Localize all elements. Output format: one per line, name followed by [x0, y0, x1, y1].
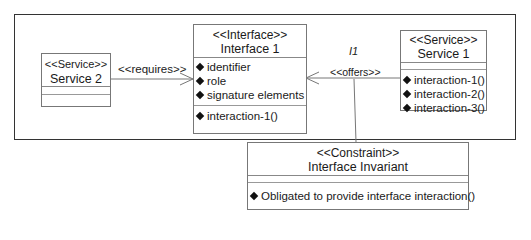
operation-item: interaction-1(): [401, 73, 486, 87]
attributes-section: [248, 176, 468, 183]
operation-item: Obligated to provide interface interacti…: [248, 189, 468, 203]
class-name: Service 2: [42, 71, 110, 87]
diamond-icon: [403, 104, 411, 112]
requires-label: <<requires>>: [118, 63, 186, 75]
interface-1-class[interactable]: <<Interface>> Interface 1 identifier rol…: [193, 24, 307, 134]
class-name: Service 1: [401, 47, 486, 62]
stereotype: <<Interface>>: [194, 28, 306, 42]
diamond-icon: [403, 76, 411, 84]
attribute-item: role: [194, 74, 306, 88]
offers-label: <<offers>>: [330, 66, 381, 78]
attributes-section: [42, 87, 110, 95]
operation-item: interaction-1(): [194, 109, 306, 123]
attribute-item: identifier: [194, 60, 306, 74]
diamond-icon: [196, 77, 204, 85]
operation-item: interaction-3(): [401, 101, 486, 115]
service-2-class[interactable]: <<Service>> Service 2: [41, 53, 111, 107]
operations-section: interaction-1(): [194, 106, 306, 123]
stereotype: <<Constraint>>: [248, 146, 468, 160]
diamond-icon: [196, 112, 204, 120]
diamond-icon: [196, 63, 204, 71]
diamond-icon: [403, 90, 411, 98]
diamond-icon: [196, 91, 204, 99]
stereotype: <<Service>>: [42, 57, 110, 71]
attributes-section: [401, 63, 486, 70]
attribute-item: signature elements: [194, 88, 306, 102]
stereotype: <<Service>>: [401, 33, 486, 47]
service-1-class[interactable]: <<Service>> Service 1 interaction-1() in…: [400, 30, 487, 111]
offers-name-label: I1: [349, 45, 358, 57]
class-name: Interface 1: [194, 42, 306, 57]
diamond-icon: [250, 192, 258, 200]
operations-section: Obligated to provide interface interacti…: [248, 183, 468, 203]
operation-item: interaction-2(): [401, 87, 486, 101]
class-name: Interface Invariant: [248, 160, 468, 175]
constraint-link-line: [354, 79, 356, 142]
interface-invariant-constraint[interactable]: <<Constraint>> Interface Invariant Oblig…: [247, 142, 469, 210]
attributes-section: identifier role signature elements: [194, 58, 306, 106]
operations-section: interaction-1() interaction-2() interact…: [401, 70, 486, 115]
